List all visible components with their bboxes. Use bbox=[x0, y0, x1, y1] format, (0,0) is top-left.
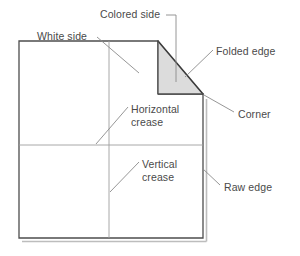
label-vertical-crease-line2: crease bbox=[142, 171, 174, 183]
corner-leader bbox=[204, 95, 234, 112]
folded-edge-leader bbox=[185, 50, 213, 77]
label-vertical-crease: Vertical crease bbox=[142, 158, 212, 183]
label-horizontal-crease-line1: Horizontal bbox=[131, 103, 179, 115]
paper-fold-diagram: Colored side White side Folded edge Corn… bbox=[0, 0, 300, 256]
label-horizontal-crease: Horizontal crease bbox=[131, 103, 201, 128]
label-raw-edge: Raw edge bbox=[224, 181, 272, 194]
label-white-side: White side bbox=[37, 30, 87, 43]
label-folded-edge: Folded edge bbox=[216, 45, 275, 58]
label-horizontal-crease-line2: crease bbox=[131, 116, 163, 128]
label-corner: Corner bbox=[238, 108, 271, 121]
label-colored-side: Colored side bbox=[100, 8, 160, 21]
label-vertical-crease-line1: Vertical bbox=[142, 158, 177, 170]
